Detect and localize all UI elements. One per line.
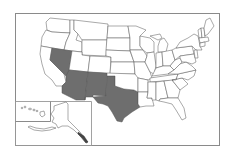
us-map (0, 0, 233, 157)
state-maryland (180, 54, 196, 64)
state-connecticut (200, 42, 205, 47)
inset-box (16, 102, 92, 146)
state-south-dakota (106, 38, 130, 51)
state-colorado (88, 56, 111, 74)
state-florida (159, 98, 186, 120)
state-north-dakota (107, 26, 130, 38)
state-maine (204, 18, 214, 36)
state-new-mexico (85, 72, 107, 100)
state-washington (46, 18, 70, 33)
state-arkansas (138, 78, 148, 92)
state-wyoming (82, 40, 107, 56)
state-kansas (110, 62, 135, 74)
state-new-jersey (194, 50, 198, 58)
state-mississippi (147, 82, 156, 100)
state-montana (74, 20, 108, 40)
